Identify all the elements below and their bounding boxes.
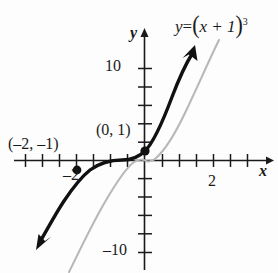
equation-exponent: 3 xyxy=(243,16,248,27)
equation-lhs: y xyxy=(175,17,183,36)
equation-close-paren: ) xyxy=(236,12,243,37)
y-tick-label-10: 10 xyxy=(105,58,121,74)
equation-equals: = xyxy=(183,17,193,36)
marked-point-0-1 xyxy=(140,146,149,155)
y-tick-label-neg10: –10 xyxy=(103,242,127,258)
x-tick-label-neg2: –2 xyxy=(63,167,79,183)
x-tick-label-2: 2 xyxy=(208,173,216,189)
point-annotation-neg2-neg1: (–2, –1) xyxy=(8,136,59,152)
equation-base: x + 1 xyxy=(199,17,235,36)
point-annotation-0-1: (0, 1) xyxy=(96,122,131,138)
y-axis-label: y xyxy=(130,25,137,41)
equation-open-paren: ( xyxy=(192,12,199,37)
equation-label: y=(x + 1)3 xyxy=(175,14,248,36)
x-axis-label: x xyxy=(259,163,267,179)
